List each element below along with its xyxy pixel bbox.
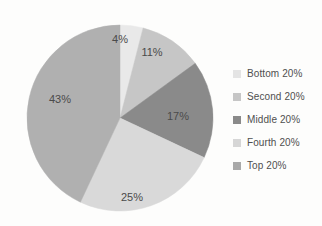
legend-item-label: Fourth 20%: [247, 137, 300, 148]
pie-slice-label: 43%: [49, 93, 71, 105]
pie-slice-label: 4%: [112, 33, 128, 45]
legend-item[interactable]: Fourth 20%: [233, 131, 319, 154]
legend-item-label: Second 20%: [247, 91, 305, 102]
legend-item-label: Top 20%: [247, 160, 287, 171]
legend-swatch-icon: [233, 116, 241, 124]
pie-plot-area: 4%11%17%25%43%: [0, 0, 226, 226]
legend-swatch-icon: [233, 70, 241, 78]
legend-item[interactable]: Second 20%: [233, 85, 319, 108]
legend-swatch-icon: [233, 139, 241, 147]
pie-slice-label: 25%: [121, 191, 143, 203]
legend-item[interactable]: Middle 20%: [233, 108, 319, 131]
legend-item[interactable]: Bottom 20%: [233, 62, 319, 85]
legend-item-label: Middle 20%: [247, 114, 300, 125]
pie-svg: 4%11%17%25%43%: [0, 0, 226, 226]
pie-slice-label: 17%: [167, 110, 189, 122]
legend-item[interactable]: Top 20%: [233, 154, 319, 177]
legend-swatch-icon: [233, 93, 241, 101]
legend-item-label: Bottom 20%: [247, 68, 302, 79]
legend-swatch-icon: [233, 162, 241, 170]
pie-slice-label: 11%: [141, 46, 162, 58]
pie-chart-figure: 4%11%17%25%43% Bottom 20%Second 20%Middl…: [0, 0, 322, 226]
chart-legend: Bottom 20%Second 20%Middle 20%Fourth 20%…: [233, 62, 319, 177]
